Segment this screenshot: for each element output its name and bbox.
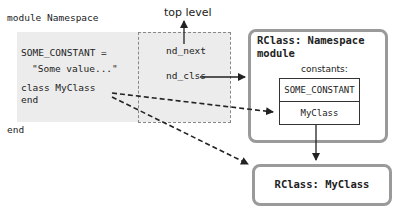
arrows-layer xyxy=(0,0,395,214)
